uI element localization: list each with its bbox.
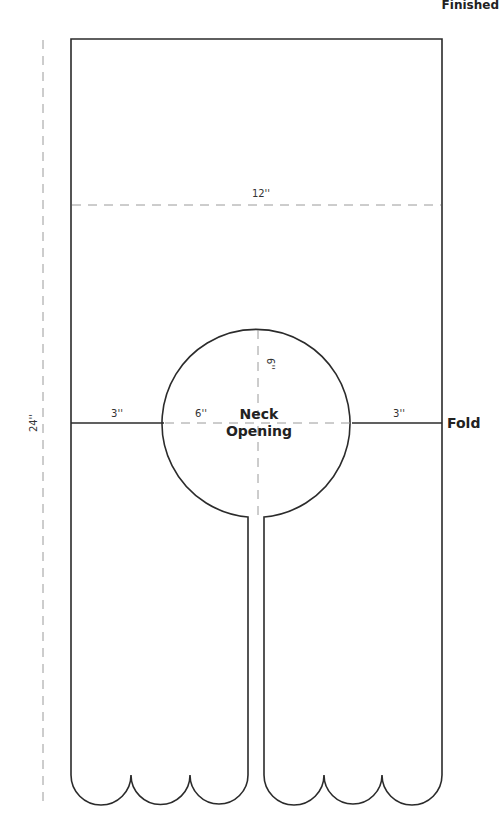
pattern-diagram: Finished 24'' 12'' 3'' 3'' 6'' 6'' Neck … [0, 0, 499, 837]
fold-label: Fold [447, 415, 480, 431]
neck-opening-label-line1: Neck [240, 406, 280, 422]
left-shoulder-label: 3'' [111, 408, 123, 419]
neck-opening-label-line2: Opening [226, 423, 292, 439]
neck-vertical-label: 6'' [265, 358, 276, 370]
pattern-outline [71, 39, 442, 805]
height-label: 24'' [28, 414, 39, 432]
header-title: Finished [442, 0, 499, 12]
right-shoulder-label: 3'' [393, 408, 405, 419]
width-label: 12'' [252, 188, 270, 199]
neck-horizontal-label: 6'' [195, 408, 207, 419]
